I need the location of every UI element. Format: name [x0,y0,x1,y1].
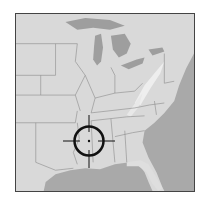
shaded-relief-map [16,14,194,191]
map-frame [15,13,195,192]
